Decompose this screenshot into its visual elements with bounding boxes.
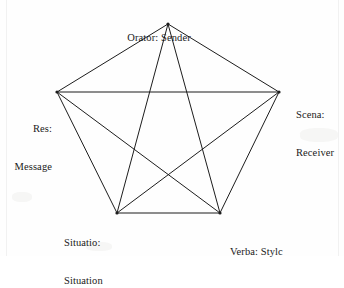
- vertex-label-scena: Scena: Receiver: [296, 84, 334, 184]
- vertex-label-scena-line1: Scena:: [296, 109, 334, 122]
- vertex-label-situatio-line1: Situatio:: [64, 237, 103, 250]
- vertex-label-orator-line1: Orator: Sender: [127, 32, 191, 45]
- vertex-label-scena-line2: Receiver: [296, 147, 334, 160]
- node-res: [55, 90, 58, 93]
- vertex-label-verba: Verba: Stylc: [230, 221, 283, 284]
- vertex-label-situatio: Situatio: Situation: [64, 212, 103, 288]
- node-verba: [218, 211, 221, 214]
- vertex-label-res-line2: Message: [15, 161, 52, 174]
- edge-scena-verba: [220, 92, 279, 213]
- edge-situatio-res: [57, 92, 117, 213]
- vertex-label-res-line1: Res:: [15, 123, 52, 136]
- edge-verba-res: [57, 92, 220, 213]
- vertex-label-verba-line1: Verba: Stylc: [230, 246, 283, 259]
- node-scena: [277, 90, 280, 93]
- vertex-label-orator: Orator: Sender: [127, 7, 191, 70]
- edge-scena-situatio: [117, 92, 279, 213]
- vertex-label-situatio-line2: Situation: [64, 275, 103, 288]
- vertex-label-res: Res: Message: [15, 98, 52, 198]
- node-situatio: [115, 211, 118, 214]
